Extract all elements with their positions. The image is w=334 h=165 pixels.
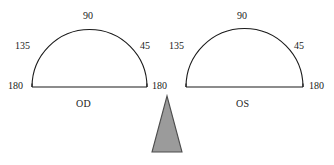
od-semicircle-group <box>32 29 147 87</box>
os-label-90: 90 <box>237 11 247 21</box>
os-label-180-right: 180 <box>309 81 324 91</box>
semicircle-axis-diagram: 90 135 45 180 180 OD 90 135 45 180 OS <box>0 0 334 165</box>
os-label-45: 45 <box>294 41 304 51</box>
nose-triangle-marker <box>152 96 182 152</box>
os-semicircle-group <box>186 29 303 88</box>
od-eye-label: OD <box>76 99 91 109</box>
od-label-135: 135 <box>15 41 30 51</box>
od-label-45: 45 <box>140 41 150 51</box>
od-label-90: 90 <box>83 11 93 21</box>
od-label-180-right: 180 <box>152 81 167 91</box>
os-label-135: 135 <box>169 41 184 51</box>
os-arc <box>186 29 303 88</box>
os-eye-label: OS <box>236 99 250 109</box>
od-arc <box>32 29 147 87</box>
diagram-canvas <box>0 0 334 165</box>
od-label-180-left: 180 <box>8 81 23 91</box>
